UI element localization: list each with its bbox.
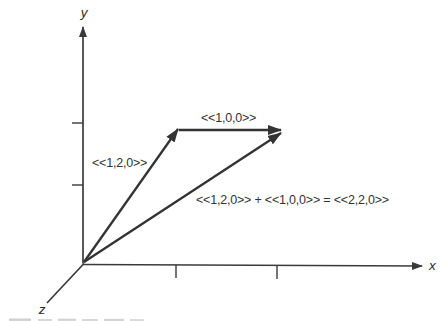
x-axis-label: x (428, 258, 437, 273)
vector-b-label: <<1,0,0>> (201, 111, 256, 125)
z-axis-label: z (38, 302, 46, 317)
z-axis (47, 264, 84, 304)
figure-vector-addition: y x z <<1,2,0>> <<1,0,0>> <<1,2,0>> + <<… (0, 0, 447, 321)
vector-a-arrow (84, 129, 178, 262)
sum-equation-label: <<1,2,0>> + <<1,0,0>> = <<2,2,0>> (196, 193, 389, 207)
y-axis-label: y (80, 5, 89, 20)
diagram-canvas: y x z <<1,2,0>> <<1,0,0>> <<1,2,0>> + <<… (0, 0, 447, 321)
x-axis (83, 265, 422, 267)
vector-a-label: <<1,2,0>> (92, 156, 147, 170)
